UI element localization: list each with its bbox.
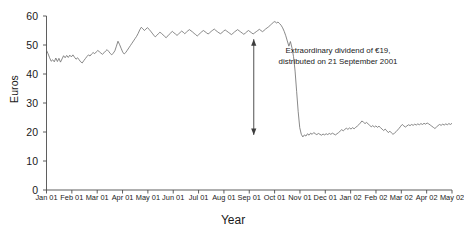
arrow-head-up [251,39,256,46]
x-tick-label: Mar 02 [390,193,413,202]
y-tick-label: 60 [12,11,38,21]
y-tick-label: 10 [12,156,38,166]
x-tick-label: Jan 01 [35,193,57,202]
x-tick-label: Feb 02 [364,193,387,202]
y-tick-label: 0 [12,185,38,195]
x-tick-label: May 02 [440,193,464,202]
price-line [47,22,453,137]
x-tick-label: Jul 01 [189,193,209,202]
arrow-head-down [251,128,256,135]
x-tick-label: Sep 01 [238,193,261,202]
x-tick-label: Dec 01 [314,193,337,202]
x-tick-label: Apr 02 [416,193,438,202]
x-tick-label: Nov 01 [288,193,311,202]
y-tick-label: 40 [12,69,38,79]
x-tick-label: Oct 01 [264,193,286,202]
x-tick-label: Feb 01 [60,193,83,202]
x-tick-label: May 01 [136,193,160,202]
x-tick-label: Aug 01 [212,193,235,202]
axes-group [43,16,452,194]
dividend-annotation-text: Extraordinary dividend of €19, distribut… [252,46,424,67]
data-series-group [47,22,453,137]
y-tick-label: 30 [12,98,38,108]
x-tick-label: Jan 02 [340,193,362,202]
x-tick-label: Jun 01 [162,193,184,202]
y-tick-label: 20 [12,127,38,137]
x-tick-label: Apr 01 [112,193,134,202]
y-tick-label: 50 [12,40,38,50]
x-tick-label: Mar 01 [86,193,109,202]
